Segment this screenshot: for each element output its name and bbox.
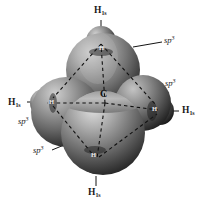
inner-hydrogen-mark-left: H xyxy=(49,99,54,106)
hydrogen-orbital-subscript: 1s xyxy=(101,10,106,16)
carbon-center-label: C xyxy=(100,89,107,99)
sp3-label-lower-left: sp3 xyxy=(33,146,44,155)
sp3-exponent: 3 xyxy=(41,145,44,151)
sp3-label-mid-right: sp3 xyxy=(165,79,176,88)
inner-hydrogen-mark-bottom: H xyxy=(91,152,96,159)
hydrogen-orbital-subscript: 1s xyxy=(15,102,20,108)
sp3-exponent: 3 xyxy=(172,35,175,41)
sp3-exponent: 3 xyxy=(173,78,176,84)
hydrogen-label-right: H1s xyxy=(182,106,195,116)
sp3-base: sp xyxy=(164,35,172,45)
sp3-base: sp xyxy=(33,145,41,155)
sp3-label-upper-right: sp3 xyxy=(164,36,175,45)
hydrogen-label-bottom: H1s xyxy=(88,188,101,198)
hydrogen-label-left: H1s xyxy=(8,98,21,108)
inner-hydrogen-mark-right: H xyxy=(152,106,157,113)
sp3-base: sp xyxy=(18,116,26,126)
top-lobe-highlight xyxy=(78,32,118,84)
hydrogen-label-top: H1s xyxy=(94,6,107,16)
sp3-base: sp xyxy=(165,78,173,88)
sp3-label-mid-left: sp3 xyxy=(18,117,29,126)
molecule-illustration xyxy=(0,0,209,208)
hydrogen-orbital-subscript: 1s xyxy=(95,192,100,198)
inner-hydrogen-mark-top: H xyxy=(99,45,104,52)
methane-sp3-orbital-diagram: C H1s H1s H1s H1s sp3 sp3 sp3 sp3 H H H … xyxy=(0,0,209,208)
leader-sp3-upper-right xyxy=(133,42,162,47)
sp3-exponent: 3 xyxy=(26,116,29,122)
hydrogen-orbital-subscript: 1s xyxy=(189,110,194,116)
